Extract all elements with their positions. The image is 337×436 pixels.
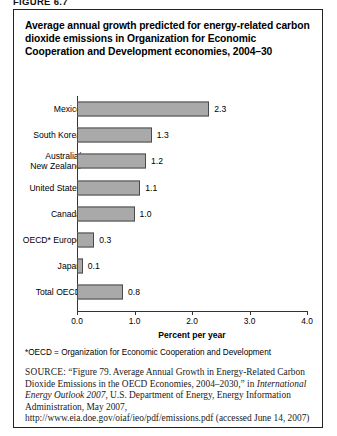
figure-number: FIGURE 6.7 — [13, 0, 68, 7]
bar-track: 0.3 — [77, 227, 324, 253]
x-axis-tick — [192, 311, 193, 315]
x-axis-title: Percent per year — [77, 330, 307, 340]
bar-row: Japan0.1 — [14, 253, 324, 279]
bar-row: Total OECD0.8 — [14, 279, 324, 305]
bar-category-label: Australia/ New Zealand — [0, 151, 81, 171]
chart-title: Average annual growth predicted for ener… — [25, 19, 310, 59]
x-axis-tick — [307, 311, 308, 315]
bar-track: 1.1 — [77, 175, 324, 201]
bar — [77, 128, 152, 143]
x-axis-tick-label: 4.0 — [301, 316, 313, 326]
bars-container: Mexico2.3South Korea1.3Australia/ New Ze… — [14, 96, 324, 306]
x-axis-tick-label: 3.0 — [244, 316, 256, 326]
x-axis-tick — [77, 311, 78, 315]
bar — [77, 285, 123, 300]
bar-row: United States1.1 — [14, 175, 324, 201]
bar-category-label: OECD* Europe — [0, 235, 81, 245]
bar-track: 1.0 — [77, 201, 324, 227]
x-axis-tick-label: 0.0 — [71, 316, 83, 326]
bar-value-label: 1.3 — [157, 130, 169, 140]
x-axis-tick — [250, 311, 251, 315]
bar-row: Mexico2.3 — [14, 96, 324, 122]
bar — [77, 206, 135, 221]
bar-track: 0.1 — [77, 253, 324, 279]
bar-value-label: 0.1 — [88, 261, 100, 271]
bar-value-label: 2.3 — [214, 104, 226, 114]
bar-category-label: United States — [0, 183, 81, 193]
bar-category-label: South Korea — [0, 130, 81, 140]
bar-track: 1.2 — [77, 148, 324, 174]
bar-row: Canada1.0 — [14, 201, 324, 227]
bar-category-label: Total OECD — [0, 287, 81, 297]
bar-chart-plot-area: Mexico2.3South Korea1.3Australia/ New Ze… — [14, 96, 324, 311]
bar-track: 0.8 — [77, 279, 324, 305]
bar-value-label: 1.2 — [151, 156, 163, 166]
bar-value-label: 1.0 — [140, 209, 152, 219]
bar — [77, 233, 94, 248]
x-axis-tick-label: 2.0 — [186, 316, 198, 326]
source-note: SOURCE: “Figure 79. Average Annual Growt… — [25, 367, 313, 425]
x-axis-tick-label: 1.0 — [129, 316, 141, 326]
source-label: SOURCE: — [25, 367, 66, 377]
x-axis-tick — [135, 311, 136, 315]
bar-row: OECD* Europe0.3 — [14, 227, 324, 253]
bar-value-label: 0.3 — [99, 235, 111, 245]
bar — [77, 102, 209, 117]
bar-value-label: 1.1 — [145, 183, 157, 193]
bar — [77, 259, 83, 274]
figure-frame: Average annual growth predicted for ener… — [13, 9, 323, 428]
bar-row: Australia/ New Zealand1.2 — [14, 148, 324, 174]
bar — [77, 180, 140, 195]
bar — [77, 154, 146, 169]
bar-category-label: Mexico — [0, 104, 81, 114]
bar-category-label: Canada — [0, 209, 81, 219]
bar-category-label: Japan — [0, 261, 81, 271]
bar-value-label: 0.8 — [128, 287, 140, 297]
bar-track: 2.3 — [77, 96, 324, 122]
bar-row: South Korea1.3 — [14, 122, 324, 148]
footnote: *OECD = Organization for Economic Cooper… — [25, 347, 315, 358]
bar-track: 1.3 — [77, 122, 324, 148]
